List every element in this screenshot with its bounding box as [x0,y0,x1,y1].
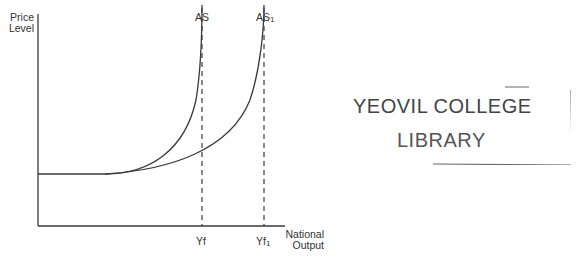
library-stamp: YEOVIL COLLEGE LIBRARY [345,85,571,165]
stamp-text-library: LIBRARY [397,129,486,152]
as1-curve [105,5,264,174]
as-curve [105,5,202,174]
stamp-text-college: YEOVIL COLLEGE [353,95,532,118]
